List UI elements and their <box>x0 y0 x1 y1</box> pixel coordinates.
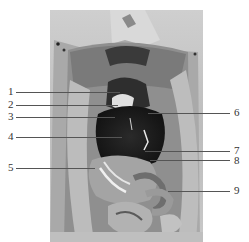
leader-line-7 <box>145 151 230 152</box>
dissection-photo <box>50 10 203 242</box>
leader-line-3 <box>16 117 115 118</box>
label-6: 6 <box>234 107 240 118</box>
leader-line-1 <box>16 92 120 93</box>
leader-line-8 <box>150 160 230 161</box>
leader-line-9 <box>168 191 230 192</box>
leader-line-4 <box>16 137 122 138</box>
label-3: 3 <box>8 111 14 122</box>
label-2: 2 <box>8 99 14 110</box>
label-5: 5 <box>8 162 14 173</box>
leader-line-2 <box>16 105 118 106</box>
label-4: 4 <box>8 131 14 142</box>
label-1: 1 <box>8 86 14 97</box>
label-9: 9 <box>234 185 240 196</box>
anatomy-figure: 1 2 3 4 5 6 7 8 9 <box>0 0 249 242</box>
label-8: 8 <box>234 155 240 166</box>
leader-line-5 <box>16 168 95 169</box>
leader-line-6 <box>148 113 230 114</box>
